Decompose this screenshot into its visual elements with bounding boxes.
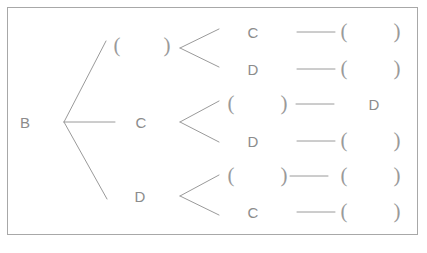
node-row4-close-paren[interactable]: ) — [394, 130, 401, 151]
node-row5-open-paren-2[interactable]: ( — [341, 165, 348, 186]
node-row5-close-paren[interactable]: ) — [281, 165, 288, 186]
node-branch1-close-paren[interactable]: ) — [164, 35, 171, 56]
node-row5-close-paren-2[interactable]: ) — [394, 165, 401, 186]
node-row2-open-paren[interactable]: ( — [341, 58, 348, 79]
node-row2-close-paren[interactable]: ) — [394, 58, 401, 79]
node-branch1-open-paren[interactable]: ( — [114, 35, 121, 56]
node-row3-open-paren[interactable]: ( — [228, 93, 235, 114]
node-row4-d[interactable]: D — [248, 134, 259, 149]
node-root-b[interactable]: B — [20, 115, 30, 130]
node-row5-open-paren[interactable]: ( — [228, 165, 235, 186]
node-row2-d[interactable]: D — [248, 62, 259, 77]
node-row3-close-paren[interactable]: ) — [281, 93, 288, 114]
diagram-border — [7, 7, 418, 235]
node-row6-c[interactable]: C — [248, 205, 259, 220]
node-row6-open-paren[interactable]: ( — [341, 201, 348, 222]
diagram-canvas: B ( ) C D C ( ) D ( ) ( ) D D ( ) ( ) ( … — [0, 0, 427, 253]
node-row3-d[interactable]: D — [369, 97, 380, 112]
node-branch3-d[interactable]: D — [135, 189, 146, 204]
node-row4-open-paren[interactable]: ( — [341, 130, 348, 151]
node-row1-c[interactable]: C — [248, 25, 259, 40]
node-row1-close-paren[interactable]: ) — [394, 21, 401, 42]
node-row6-close-paren[interactable]: ) — [394, 201, 401, 222]
node-row1-open-paren[interactable]: ( — [341, 21, 348, 42]
node-branch2-c[interactable]: C — [136, 115, 147, 130]
